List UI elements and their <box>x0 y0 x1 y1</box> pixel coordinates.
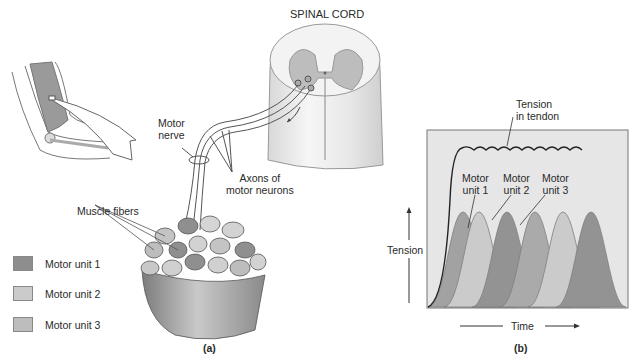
legend-item-motor-unit-2: Motor unit 2 <box>13 286 100 301</box>
muscle-fiber-bundle <box>95 205 266 339</box>
legend-swatch <box>13 317 33 332</box>
spinal-cord-illustration <box>268 24 383 169</box>
legend-swatch <box>13 256 33 271</box>
arm-illustration <box>12 62 136 160</box>
legend-item-motor-unit-3: Motor unit 3 <box>13 317 100 332</box>
axons-label: Axons of motor neurons <box>226 172 294 196</box>
legend-swatch <box>13 286 33 301</box>
tension-chart <box>407 117 629 329</box>
motor-unit-3-chart-label: Motor unit 3 <box>542 172 569 196</box>
y-axis-label: Tension <box>387 244 423 256</box>
panel-a-label: (a) <box>203 342 216 354</box>
motor-nerve-label: Motor nerve <box>158 117 185 141</box>
legend-item-motor-unit-1: Motor unit 1 <box>13 256 100 271</box>
motor-unit-1-chart-label: Motor unit 1 <box>462 172 489 196</box>
x-axis-label: Time <box>511 320 534 332</box>
panel-b-label: (b) <box>514 342 527 354</box>
spinal-cord-label: SPINAL CORD <box>290 8 364 20</box>
tension-in-tendon-label: Tension in tendon <box>516 98 559 122</box>
motor-unit-2-chart-label: Motor unit 2 <box>503 172 530 196</box>
muscle-fibers-label: Muscle fibers <box>77 205 139 217</box>
